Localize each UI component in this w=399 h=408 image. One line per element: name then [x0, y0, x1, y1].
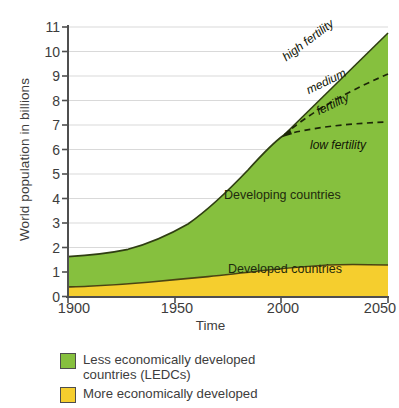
annotation-developing-countries: Developing countries — [224, 188, 341, 202]
legend-item-ledc: Less economically developed countries (L… — [60, 352, 399, 382]
x-tick-1900: 1900 — [58, 300, 90, 316]
x-axis-title: Time — [0, 318, 399, 333]
x-tick-2000: 2000 — [267, 300, 299, 316]
legend-label-medc: More economically developed — [83, 386, 257, 401]
annotation-developed-countries: Developed countries — [228, 262, 342, 276]
legend-label-ledc-line2: countries (LEDCs) — [83, 367, 255, 382]
legend-swatch-green — [60, 353, 76, 369]
legend-swatch-yellow — [60, 387, 76, 403]
legend-label-ledc: Less economically developed countries (L… — [83, 352, 255, 382]
chart-plot-area — [0, 0, 399, 408]
x-tick-2050: 2050 — [364, 300, 396, 316]
annotation-low-fertility: low fertility — [310, 138, 366, 152]
legend-item-medc: More economically developed — [60, 386, 399, 403]
x-tick-1950: 1950 — [161, 300, 193, 316]
x-axis-title-text: Time — [196, 318, 226, 333]
chart-legend: Less economically developed countries (L… — [60, 352, 399, 407]
legend-label-ledc-line1: Less economically developed — [83, 352, 255, 367]
